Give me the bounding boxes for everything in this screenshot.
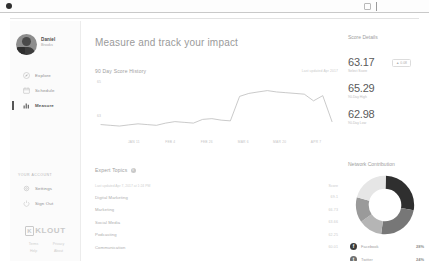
table-row[interactable]: Podcasting 62.25 xyxy=(95,229,338,242)
x-axis-tick: FEB 4 xyxy=(165,140,175,144)
text-cursor xyxy=(376,2,377,11)
table-row[interactable]: Marketing 66.73 xyxy=(95,204,338,217)
topic-value: 63.66 xyxy=(329,220,339,224)
legend-label: Facebook xyxy=(361,244,416,249)
circle-dot-icon[interactable] xyxy=(6,3,12,9)
score-details-panel: Score Details 63.17 Select Score ▲ 0.08 … xyxy=(348,34,426,40)
sidebar-item-schedule[interactable]: Schedule xyxy=(10,83,81,98)
sidebar-item-label: Sign Out xyxy=(35,201,53,206)
x-axis-tick: FEB 26 xyxy=(201,140,213,144)
x-axis-tick: APR 7 xyxy=(311,140,322,144)
line-series xyxy=(95,80,338,138)
expert-topics-meta: Last updated Apr 7, 2017 at 1:24 PM Scor… xyxy=(95,180,338,191)
score-label: 90-Day Low xyxy=(348,121,426,125)
legend-label: Twitter xyxy=(361,257,416,261)
topic-label: Digital Marketing xyxy=(95,195,128,200)
expert-topics-title: Expert Topics xyxy=(95,167,128,173)
compass-icon xyxy=(23,72,30,79)
score-history-meta: Last updated Apr 2017 xyxy=(302,69,338,73)
klout-logo-mark: K xyxy=(25,226,34,236)
topic-label: Podcasting xyxy=(95,232,117,237)
sidebar-account-nav: Settings Sign Out xyxy=(10,181,81,211)
power-icon xyxy=(23,200,30,207)
calendar-icon xyxy=(23,87,30,94)
topic-value: 60.01 xyxy=(329,245,339,249)
profile-subtitle: Brooks xyxy=(41,43,79,48)
footer-link-about[interactable]: About xyxy=(46,248,71,255)
network-contribution-panel: Network Contribution f Facebook 28% t Tw… xyxy=(348,161,426,167)
footer-link-privacy[interactable]: Privacy xyxy=(46,241,71,248)
gear-icon xyxy=(23,185,30,192)
info-icon[interactable]: i xyxy=(131,168,136,173)
expert-topics-card: Expert Topics i Last updated Apr 7, 2017… xyxy=(95,167,338,254)
score-block-high: 65.29 90-Day High xyxy=(348,82,426,99)
expert-topics-meta-label: Last updated Apr 7, 2017 at 1:24 PM xyxy=(95,184,150,188)
sidebar-item-label: Measure xyxy=(35,103,54,108)
x-axis-tick: MAR 20 xyxy=(273,140,286,144)
legend-percent: 28% xyxy=(416,244,424,249)
list-item[interactable]: f Facebook 28% xyxy=(350,240,424,253)
footer-link-help[interactable]: Help xyxy=(21,248,46,255)
table-row[interactable]: Social Media 63.66 xyxy=(95,216,338,229)
expert-topics-header: Expert Topics i xyxy=(95,167,338,173)
sidebar-item-explore[interactable]: Explore xyxy=(10,68,81,83)
profile-block[interactable]: Daniel Brooks xyxy=(16,34,78,56)
donut-chart[interactable] xyxy=(355,175,415,235)
score-value: 62.98 xyxy=(348,108,426,120)
account-heading: YOUR ACCOUNT xyxy=(18,173,52,177)
twitter-icon: t xyxy=(350,256,357,261)
x-axis: JAN 11 FEB 4 FEB 26 MAR 6 MAR 20 APR 7 xyxy=(95,140,338,148)
score-history-chart[interactable]: 65 63 xyxy=(95,80,338,138)
legend-percent: 24% xyxy=(416,257,424,261)
x-axis-tick: MAR 6 xyxy=(238,140,249,144)
sidebar-item-label: Schedule xyxy=(35,88,55,93)
score-history-card: 90 Day Score History Last updated Apr 20… xyxy=(95,68,338,153)
table-row[interactable]: Digital Marketing 69.1 xyxy=(95,191,338,204)
x-axis-tick: JAN 11 xyxy=(128,140,140,144)
page-body: Daniel Brooks Explore xyxy=(0,13,429,261)
klout-logo: KKLOUT xyxy=(10,226,81,236)
network-contribution-title: Network Contribution xyxy=(348,161,426,167)
topic-value: 69.1 xyxy=(331,195,338,199)
expert-topics-meta-value: Score xyxy=(329,184,338,188)
footer-link-terms[interactable]: Terms xyxy=(21,241,46,248)
score-label: 90-Day High xyxy=(348,95,426,99)
sidebar-item-settings[interactable]: Settings xyxy=(10,181,81,196)
klout-measure-page: Daniel Brooks Explore xyxy=(0,0,429,261)
page-title: Measure and track your impact xyxy=(95,37,238,48)
topic-label: Communication xyxy=(95,245,125,250)
table-row[interactable]: Communication 60.01 xyxy=(95,241,338,254)
list-item[interactable]: t Twitter 24% xyxy=(350,253,424,261)
topic-value: 66.73 xyxy=(329,208,339,212)
avatar xyxy=(16,34,37,55)
avatar-badge-icon xyxy=(17,47,25,54)
sidebar: Daniel Brooks Explore xyxy=(10,21,81,261)
klout-logo-text: KLOUT xyxy=(35,226,66,235)
topic-value: 62.25 xyxy=(329,233,339,237)
sidebar-item-label: Explore xyxy=(35,73,51,78)
sidebar-nav: Explore Schedule xyxy=(10,68,81,113)
facebook-icon: f xyxy=(350,243,357,250)
score-label: Select Score xyxy=(348,69,426,73)
main-content: Measure and track your impact 90 Day Sco… xyxy=(81,21,338,261)
score-change-badge: ▲ 0.08 xyxy=(392,59,411,67)
score-block-low: 62.98 90-Day Low xyxy=(348,108,426,125)
square-icon[interactable] xyxy=(364,3,371,10)
sidebar-footer-links: Terms Privacy Help About xyxy=(21,241,71,255)
bar-chart-icon xyxy=(23,102,30,109)
network-legend: f Facebook 28% t Twitter 24% xyxy=(350,240,424,261)
score-details-title: Score Details xyxy=(348,34,426,40)
y-axis-tick: 63 xyxy=(97,114,101,118)
y-axis-tick: 65 xyxy=(97,80,101,84)
sidebar-item-sign-out[interactable]: Sign Out xyxy=(10,196,81,211)
score-block-current: 63.17 Select Score ▲ 0.08 xyxy=(348,56,426,73)
page-top-divider xyxy=(10,18,419,19)
sidebar-item-measure[interactable]: Measure xyxy=(10,98,81,113)
topic-label: Marketing xyxy=(95,207,114,212)
score-value: 65.29 xyxy=(348,82,426,94)
topic-label: Social Media xyxy=(95,220,120,225)
sidebar-item-label: Settings xyxy=(35,186,52,191)
score-value: 63.17 xyxy=(348,56,426,68)
